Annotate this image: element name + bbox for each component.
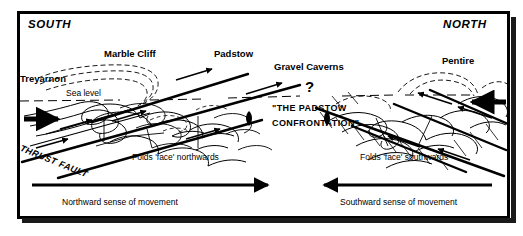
locality-label-treyarnon: Treyarnon — [20, 74, 66, 84]
locality-label-padstow: Padstow — [214, 49, 253, 59]
question-mark-label: ? — [305, 79, 314, 96]
eroded-strata-dashed-right — [336, 73, 510, 112]
padstow-confrontation-line-1: "THE PADSTOW — [272, 104, 347, 114]
slip-arrows-left — [36, 69, 282, 148]
northward-movement-label: Northward sense of movement — [62, 198, 178, 207]
sea-level-label: Sea level — [66, 89, 101, 98]
padstow-confrontation-line-2: CONFRONTATION" — [272, 119, 360, 129]
geological-cross-section-figure: SOUTH NORTH Marble Cliff Padstow Gravel … — [0, 0, 523, 236]
locality-label-pentire: Pentire — [442, 56, 474, 66]
southward-movement-label: Southward sense of movement — [340, 198, 457, 207]
folds-face-southwards-label: Folds 'face' southwards — [360, 153, 448, 162]
compass-label-north: NORTH — [443, 18, 487, 31]
locality-label-gravel-caverns: Gravel Caverns — [274, 62, 344, 72]
compass-label-south: SOUTH — [28, 18, 71, 31]
folds-face-northwards-label: Folds 'face' northwards — [132, 153, 219, 162]
locality-label-marble-cliff: Marble Cliff — [104, 49, 156, 59]
